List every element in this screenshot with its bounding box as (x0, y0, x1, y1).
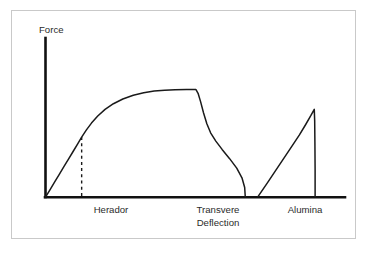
x-axis-title-line2: Deflection (197, 217, 240, 228)
force-deflection-chart: Herador Transvere Deflection Alumina For… (0, 0, 372, 254)
x-axis-title-line1: Transvere (197, 204, 240, 215)
figure-root: Herador Transvere Deflection Alumina For… (0, 0, 372, 254)
y-axis-title: Force (39, 24, 64, 35)
series-curve-alumina (258, 109, 315, 197)
x-tick-label-alumina: Alumina (288, 204, 323, 215)
x-tick-label-herador: Herador (94, 204, 129, 215)
series-curve-herador (46, 90, 246, 198)
